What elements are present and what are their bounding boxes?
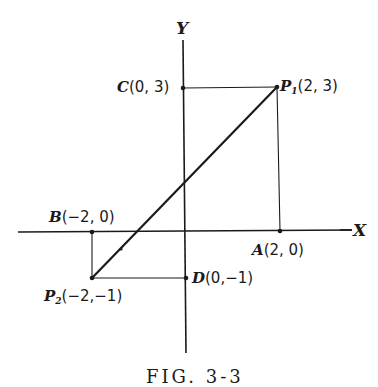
- label-d-coord: (0,−1): [205, 269, 253, 287]
- segment-p1-a: [277, 87, 280, 231]
- point-d: [184, 276, 189, 281]
- point-c: [181, 86, 186, 91]
- point-p2: [90, 276, 95, 281]
- diagonal-midpoint-mark: [119, 247, 122, 250]
- label-a-coord: (2, 0): [264, 241, 304, 259]
- label-a: A(2, 0): [252, 243, 304, 258]
- label-b-coord: (−2, 0): [62, 208, 115, 226]
- label-p2-letter: P: [44, 287, 55, 305]
- y-axis-label: Y: [176, 20, 188, 37]
- segment-c-p1: [183, 87, 277, 88]
- label-p1: P1(2, 3): [280, 79, 338, 96]
- x-axis-label: X: [353, 222, 366, 239]
- label-p1-letter: P: [280, 77, 291, 95]
- label-p2-coord: (−2,−1): [62, 287, 123, 305]
- point-a: [278, 229, 283, 234]
- label-c-letter: C: [117, 78, 129, 96]
- figure-caption: FIG. 3-3: [146, 368, 244, 386]
- point-p1: [275, 85, 280, 90]
- label-d-letter: D: [192, 269, 205, 287]
- label-b-letter: B: [49, 208, 62, 226]
- label-p2: P2(−2,−1): [44, 289, 122, 306]
- label-d: D(0,−1): [192, 271, 253, 286]
- label-p1-coord: (2, 3): [298, 77, 338, 95]
- label-c-coord: (0, 3): [129, 78, 169, 96]
- label-a-letter: A: [252, 241, 264, 259]
- label-b: B(−2, 0): [49, 210, 115, 225]
- label-c: C(0, 3): [117, 80, 169, 95]
- point-b: [90, 230, 95, 235]
